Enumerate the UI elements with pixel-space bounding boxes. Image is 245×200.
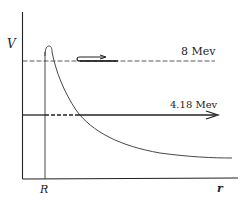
x-axis bbox=[23, 178, 239, 179]
y-axis-label: V bbox=[7, 37, 17, 51]
potential-barrier-diagram: 8 Mev 4.18 Mev V R r bbox=[0, 0, 245, 200]
radius-label: R bbox=[39, 183, 48, 196]
level-8mev-label: 8 Mev bbox=[181, 45, 216, 58]
x-axis-label: r bbox=[217, 182, 224, 195]
level-418-label: 4.18 Mev bbox=[170, 99, 218, 110]
